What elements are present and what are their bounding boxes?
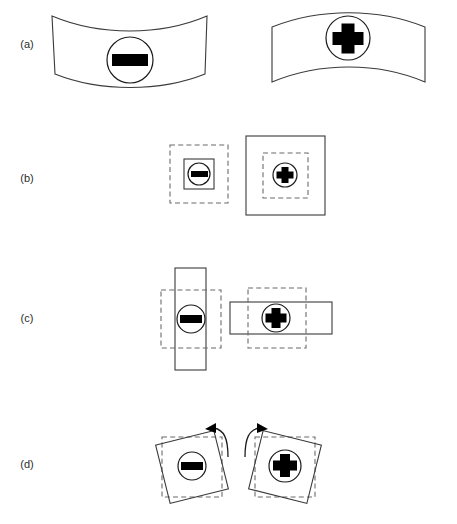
row-d-group: (d) — [20, 423, 321, 503]
panel-a-right — [272, 13, 425, 82]
panel-c-right — [230, 288, 332, 348]
charge-marker-minus-a — [107, 37, 153, 83]
row-label-c: (c) — [21, 312, 34, 324]
panel-d-right — [245, 423, 321, 503]
charge-marker-plus-c — [262, 304, 290, 332]
deformation-diagram: (a) (b) — [0, 0, 457, 524]
minus-sign-icon — [191, 171, 208, 177]
row-b-group: (b) — [20, 136, 325, 215]
row-label-b: (b) — [20, 172, 33, 184]
rotation-arrow-curve — [214, 428, 228, 457]
charge-marker-minus-d — [178, 452, 206, 480]
charge-marker-plus-a — [326, 16, 370, 60]
panel-b-right — [246, 136, 325, 215]
figure-root: (a) (b) — [0, 0, 457, 524]
minus-sign-icon — [112, 54, 148, 66]
rotation-arrow-counterclockwise — [245, 423, 268, 457]
minus-sign-icon — [180, 315, 202, 323]
row-a-group: (a) — [20, 13, 425, 88]
minus-sign-icon — [181, 462, 203, 470]
rotation-arrow-curve — [245, 428, 259, 457]
panel-d-left — [156, 423, 229, 503]
row-label-a: (a) — [20, 38, 33, 50]
panel-a-left — [52, 16, 207, 88]
row-label-d: (d) — [20, 458, 33, 470]
charge-marker-plus-d — [269, 450, 301, 482]
charge-marker-minus-c — [177, 305, 205, 333]
panel-c-left — [161, 268, 221, 370]
panel-b-left — [170, 145, 228, 203]
row-c-group: (c) — [21, 268, 332, 370]
charge-marker-plus-b — [273, 163, 297, 187]
charge-marker-minus-b — [188, 163, 210, 185]
